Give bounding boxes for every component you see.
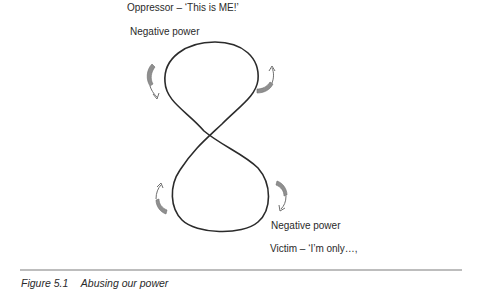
figure-eight-curve <box>165 42 269 232</box>
figure-eight-diagram <box>0 0 482 294</box>
figure-number: Figure 5.1 <box>21 277 68 289</box>
curved-arrow-icon-lower-left <box>156 183 167 214</box>
curved-arrow-icon-upper-left <box>147 64 159 99</box>
curved-arrow-icon-lower-right <box>276 181 287 211</box>
caption-divider <box>20 269 462 271</box>
figure-title: Abusing our power <box>81 277 169 289</box>
figure-caption: Figure 5.1 Abusing our power <box>21 277 168 289</box>
curved-arrow-icon-upper-right <box>257 66 275 93</box>
victim-label: Victim – ‘I’m only…, <box>270 243 358 255</box>
negative-power-bottom-label: Negative power <box>271 220 340 232</box>
